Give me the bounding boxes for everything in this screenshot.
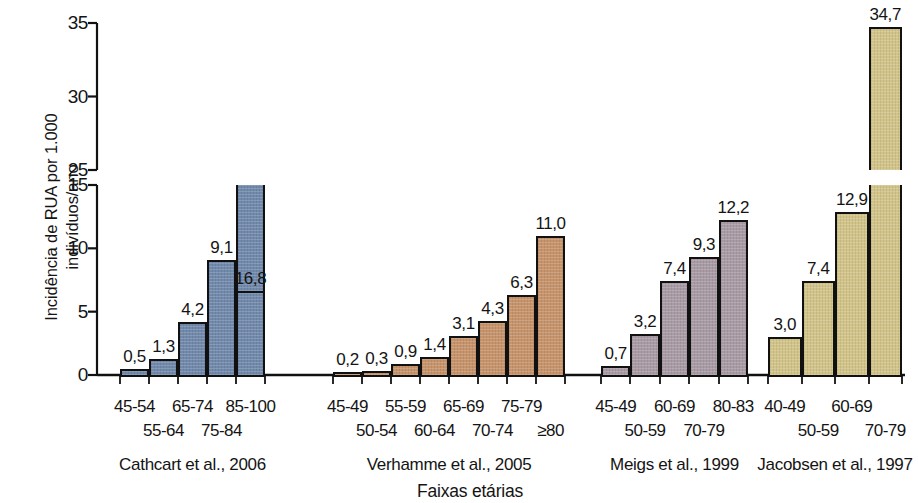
bar-value-label: 3,0 <box>746 316 824 333</box>
bar-upper-segment <box>869 27 903 170</box>
x-category-label: 85-100 <box>212 398 289 415</box>
bar-value-label: 1,4 <box>398 336 471 353</box>
bar-value-label: 9,1 <box>185 239 258 256</box>
x-category-label: 70-79 <box>665 422 742 439</box>
bar-value-label: 1,3 <box>127 338 200 355</box>
bar-value-label: 12,2 <box>697 199 770 216</box>
bar-upper-segment <box>236 291 265 293</box>
incidence-bar-chart: Incidência de RUA por 1.000 indivíduos/a… <box>0 0 918 503</box>
bar-value-label: 9,3 <box>667 236 740 253</box>
bar-value-label: 4,2 <box>156 301 229 318</box>
bar <box>120 369 149 377</box>
bar-lower-segment <box>869 185 903 377</box>
bar <box>768 337 802 377</box>
bar-value-label: 3,2 <box>608 313 681 330</box>
bar-value-label: 7,4 <box>638 260 711 277</box>
bar-value-label: 34,7 <box>847 6 918 23</box>
bar-value-label: 7,4 <box>780 260 858 277</box>
bar-value-label: 0,7 <box>579 345 652 362</box>
bar-value-label: 16,8 <box>214 270 287 287</box>
bar-value-label: 11,0 <box>514 215 587 232</box>
bar <box>601 366 630 377</box>
bar-value-label: 4,3 <box>456 300 529 317</box>
bar-value-label: 6,3 <box>485 274 558 291</box>
bar-value-label: 12,9 <box>813 191 891 208</box>
x-category-label: 75-84 <box>183 422 260 439</box>
study-group-label: Jacobsen et al., 1997 <box>708 456 918 473</box>
x-category-label: 70-79 <box>845 422 918 439</box>
bar <box>420 357 449 377</box>
x-category-label: 60-69 <box>811 398 893 415</box>
bar <box>536 236 565 377</box>
x-category-label: 75-79 <box>483 398 560 415</box>
x-axis-title: Faixas etárias <box>300 482 640 500</box>
x-category-label: ≥80 <box>512 422 589 439</box>
bar <box>835 212 869 377</box>
bar <box>362 371 391 377</box>
bar <box>333 372 362 377</box>
